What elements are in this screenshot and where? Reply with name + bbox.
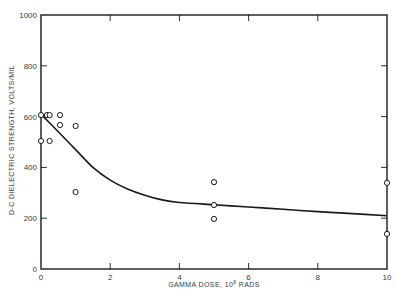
data-point [47, 112, 52, 117]
x-axis-title: GAMMA DOSE, 108 RADS [168, 279, 260, 288]
data-point [211, 202, 216, 207]
data-point [47, 138, 52, 143]
y-tick-label: 200 [24, 214, 38, 223]
data-points [38, 112, 389, 236]
x-tick-label: 2 [108, 273, 113, 282]
y-tick-label: 800 [24, 62, 38, 71]
y-tick-label: 1000 [19, 11, 37, 20]
data-point [384, 231, 389, 236]
data-point [73, 123, 78, 128]
data-point [38, 112, 43, 117]
plot-frame [41, 15, 387, 269]
data-point [384, 180, 389, 185]
y-axis-title: D-C DIELECTRIC STRENGTH, VOLTS/MIL [8, 65, 15, 215]
x-tick-label: 0 [39, 273, 44, 282]
plot-border [41, 15, 387, 269]
data-point [73, 189, 78, 194]
x-tick-label: 10 [383, 273, 392, 282]
data-point [57, 112, 62, 117]
data-point [211, 180, 216, 185]
trend-curve [41, 114, 387, 216]
y-tick-label: 600 [24, 113, 38, 122]
data-point [57, 122, 62, 127]
axis-ticks [41, 15, 387, 269]
y-tick-label: 0 [33, 265, 38, 274]
data-point [38, 138, 43, 143]
dielectric-strength-chart: 0246810 02004006008001000 GAMMA DOSE, 10… [0, 0, 396, 298]
y-tick-labels: 02004006008001000 [19, 11, 37, 274]
x-tick-label: 8 [316, 273, 321, 282]
y-tick-label: 400 [24, 163, 38, 172]
data-point [211, 216, 216, 221]
